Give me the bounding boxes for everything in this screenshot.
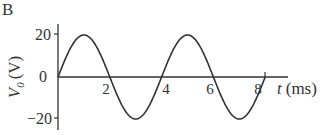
svg-text:V0(V): V0(V) bbox=[5, 56, 26, 99]
y-tick-label-0: 0 bbox=[39, 68, 47, 85]
sine-chart: 20 0 −20 V0(V) 2 4 6 8 t(ms) bbox=[0, 0, 320, 135]
x-tick-label-4: 4 bbox=[162, 81, 170, 97]
y-axis-label: V0(V) bbox=[5, 56, 26, 99]
x-axis-label: t(ms) bbox=[277, 79, 317, 98]
x-tick-label-6: 6 bbox=[206, 81, 214, 97]
x-tick-label-2: 2 bbox=[102, 81, 110, 97]
y-tick-label-20: 20 bbox=[35, 26, 51, 43]
y-tick-label-neg20: −20 bbox=[27, 110, 52, 127]
